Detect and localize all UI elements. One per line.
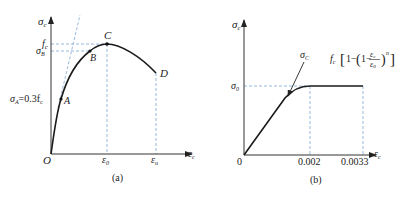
origin-label-a: O [43, 154, 51, 166]
y-axis-label-b: σc [232, 18, 241, 32]
tick-00033: 0.0033 [341, 156, 369, 167]
diagram-canvas: σc fc σB σA=0.3fc A B C D O ε0 εu εc (a)… [0, 0, 402, 197]
point-c [105, 42, 109, 46]
formula-coef: fc [330, 53, 336, 65]
x-axis-label-a: εc [188, 148, 195, 160]
panel-b: σc σ0 σC fc [ 1− ( 1− εc ε0 ) n ] 0 0.00… [231, 18, 395, 186]
caption-a: (a) [112, 172, 123, 184]
curve-label-sigma-c: σC [300, 49, 310, 61]
tick-epsu: εu [151, 154, 158, 166]
formula-bracket-open: [ [340, 51, 345, 67]
tick-sigma-a: σA=0.3fc [10, 93, 43, 105]
formula-frac-num: εc [370, 50, 376, 59]
formula-bracket-close: ] [390, 51, 395, 67]
tick-fc: fc [42, 38, 49, 51]
sigma-c-pointer-arrow [288, 62, 304, 96]
tick-0002: 0.002 [298, 156, 321, 167]
stress-strain-curve-b [244, 86, 363, 155]
caption-b: (b) [310, 174, 322, 186]
formula-frac-den: ε0 [370, 60, 376, 69]
point-a [59, 97, 62, 100]
tick-eps0: ε0 [102, 154, 109, 166]
label-d: D [159, 67, 168, 79]
formula: fc [ 1− ( 1− εc ε0 ) n ] [330, 50, 395, 69]
label-a: A [63, 95, 71, 106]
y-axis-label-a: σc [38, 15, 47, 29]
origin-label-b: 0 [237, 156, 242, 167]
label-c: C [104, 29, 112, 41]
tick-sigma0: σ0 [231, 80, 239, 92]
label-b: B [90, 52, 96, 63]
x-axis-label-b: εc [374, 148, 381, 160]
guide-lines-b [244, 86, 363, 155]
panel-a: σc fc σB σA=0.3fc A B C D O ε0 εu εc (a) [10, 15, 195, 184]
formula-exponent: n [386, 50, 389, 56]
